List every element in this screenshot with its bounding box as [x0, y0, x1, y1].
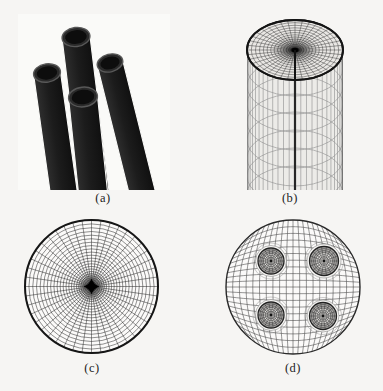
panel-a-label: (a) — [81, 191, 125, 206]
panel-b-cylinder-mesh — [243, 16, 347, 192]
panel-c-polar-mesh — [22, 217, 162, 357]
panel-a-tubes-photo — [18, 14, 170, 190]
four-panel-mesh-figure: (a) (b) (c) (d) — [0, 0, 383, 391]
panel-c-label: (c) — [70, 361, 114, 376]
panel-d-inclusion-mesh — [223, 217, 363, 357]
panel-d-label: (d) — [271, 361, 315, 376]
panel-b-label: (b) — [268, 191, 312, 206]
